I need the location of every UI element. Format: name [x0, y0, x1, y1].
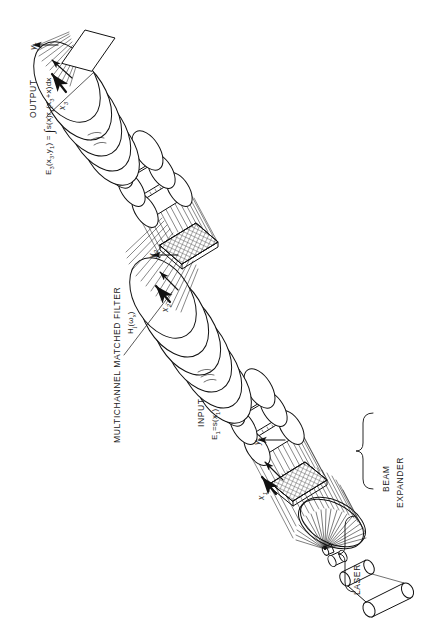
laser-label: LASER	[352, 564, 362, 595]
beam-expander-label-line2: EXPANDER	[395, 457, 405, 508]
input-caption: INPUT	[196, 399, 206, 428]
figure-canvas: OUTPUT E3(x3,y1) = ∫s(x)r1(x3+x)dx y1 x3…	[0, 0, 426, 624]
matched-filter-plate	[160, 223, 218, 269]
optical-system-drawing	[0, 0, 426, 624]
laser-tube	[338, 558, 416, 619]
axis-label-x1: x1	[256, 491, 268, 500]
output-equation: E3(x3,y1) = ∫s(x)r1(x3+x)dx	[44, 77, 55, 175]
filter-equation: Hj(ωx)	[126, 311, 137, 334]
beam-expander-label-line1: BEAM	[381, 466, 391, 493]
axis-label-x2: x2	[160, 303, 172, 312]
brace-beam-expander	[356, 413, 373, 489]
axis-label-x3-output: x3	[57, 101, 69, 110]
axis-label-y2: y2	[147, 249, 159, 258]
filter-caption: MULTICHANNEL MATCHED FILTER	[112, 287, 122, 443]
axis-label-y1-output: y1	[28, 41, 40, 50]
input-equation: E1=s(x1)	[210, 409, 221, 440]
lens-stack-1	[116, 246, 264, 434]
axis-label-y1-input: y1	[252, 436, 264, 445]
output-caption: OUTPUT	[28, 79, 38, 118]
